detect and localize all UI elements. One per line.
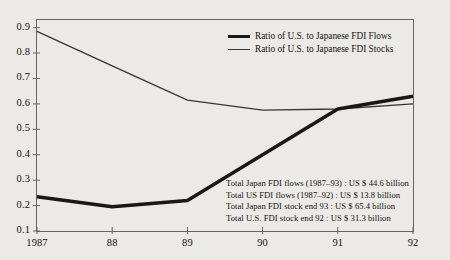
chart-legend: Ratio of U.S. to Japanese FDI Flows Rati… bbox=[228, 30, 393, 56]
annotation-line: Total US FDI flows (1987–92) : US $ 13.8… bbox=[226, 190, 409, 202]
legend-item-stocks: Ratio of U.S. to Japanese FDI Stocks bbox=[228, 43, 393, 56]
x-tick-label: 1987 bbox=[15, 237, 59, 248]
y-tick-label: 0.8 bbox=[2, 46, 30, 57]
y-tick-label: 0.3 bbox=[2, 173, 30, 184]
y-tick-label: 0.4 bbox=[2, 148, 30, 159]
annotation-line: Total Japan FDI flows (1987–93) : US $ 4… bbox=[226, 178, 409, 190]
legend-swatch-stocks-icon bbox=[228, 49, 250, 50]
y-tick-label: 0.2 bbox=[2, 199, 30, 210]
y-tick-label: 0.7 bbox=[2, 71, 30, 82]
legend-item-flows: Ratio of U.S. to Japanese FDI Flows bbox=[228, 30, 393, 43]
y-tick-label: 0.5 bbox=[2, 122, 30, 133]
x-tick-label: 88 bbox=[90, 237, 134, 248]
x-tick-label: 91 bbox=[316, 237, 360, 248]
x-tick-label: 90 bbox=[241, 237, 285, 248]
legend-swatch-flows-icon bbox=[228, 35, 250, 38]
annotation-line: Total Japan FDI stock end 93 : US $ 65.4… bbox=[226, 201, 409, 213]
fdi-ratio-line-chart: 0.10.20.30.40.50.60.70.80.9 198788899091… bbox=[0, 0, 450, 260]
y-tick-label: 0.1 bbox=[2, 224, 30, 235]
x-axis-ticks bbox=[37, 227, 413, 234]
y-tick-label: 0.9 bbox=[2, 21, 30, 32]
x-tick-label: 89 bbox=[165, 237, 209, 248]
legend-label-flows: Ratio of U.S. to Japanese FDI Flows bbox=[255, 30, 391, 43]
legend-label-stocks: Ratio of U.S. to Japanese FDI Stocks bbox=[255, 43, 393, 56]
x-tick-label: 92 bbox=[391, 237, 435, 248]
y-tick-label: 0.6 bbox=[2, 97, 30, 108]
annotation-line: Total U.S. FDI stock end 92 : US $ 31.3 … bbox=[226, 213, 409, 225]
chart-annotations: Total Japan FDI flows (1987–93) : US $ 4… bbox=[226, 178, 409, 224]
